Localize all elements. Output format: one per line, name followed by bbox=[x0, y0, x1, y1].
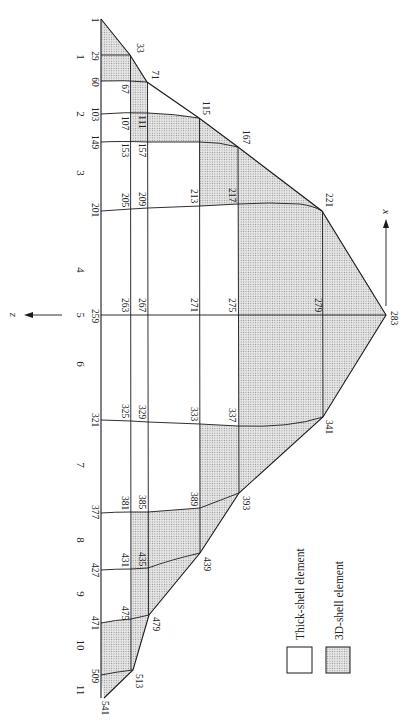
x-axis: x bbox=[381, 209, 393, 306]
node-label: 107 bbox=[120, 116, 130, 131]
node-label: 389 bbox=[189, 492, 199, 507]
legend-thick-shell-label: Thick-shell element bbox=[294, 548, 306, 640]
node-label: 271 bbox=[189, 298, 199, 313]
x-arrowhead-icon bbox=[383, 219, 389, 228]
section-number: 9 bbox=[75, 591, 87, 597]
node-label: 431 bbox=[120, 553, 130, 568]
node-label: 71 bbox=[150, 70, 160, 80]
section-number: 5 bbox=[75, 312, 87, 318]
node-label: 435 bbox=[137, 552, 147, 567]
z-axis: z bbox=[8, 312, 62, 318]
region-149-201 bbox=[200, 142, 322, 211]
node-label: 217 bbox=[227, 188, 237, 203]
node-label: 279 bbox=[313, 298, 323, 313]
section-number: 8 bbox=[75, 537, 87, 543]
legend-thick-shell-swatch bbox=[287, 647, 312, 673]
section-number: 11 bbox=[75, 685, 87, 696]
node-label: 439 bbox=[202, 557, 212, 572]
node-label: 377 bbox=[90, 505, 100, 520]
node-label: 337 bbox=[227, 408, 237, 423]
node-label: 381 bbox=[120, 496, 130, 511]
node-label: 341 bbox=[324, 420, 334, 435]
finite-element-mesh-diagram: z x 1234567891011 1293360677110310711111… bbox=[0, 0, 415, 724]
section-numbers: 1234567891011 bbox=[75, 54, 87, 695]
node-label: 209 bbox=[137, 192, 147, 207]
node-label: 479 bbox=[151, 617, 161, 632]
node-label: 329 bbox=[137, 405, 147, 420]
node-label: 167 bbox=[241, 130, 251, 145]
node-label: 471 bbox=[90, 616, 100, 631]
section-number: 3 bbox=[75, 170, 87, 176]
node-label: 475 bbox=[120, 606, 130, 621]
node-label: 149 bbox=[90, 135, 100, 150]
node-label: 321 bbox=[90, 413, 100, 428]
node-label: 201 bbox=[90, 203, 100, 218]
node-label: 333 bbox=[189, 407, 199, 422]
region-321-377 bbox=[200, 417, 323, 508]
z-axis-label: z bbox=[8, 312, 20, 318]
node-label: 157 bbox=[137, 143, 147, 158]
x-axis-label: x bbox=[381, 209, 393, 215]
legend-3d-shell-label: 3D-shell element bbox=[333, 560, 345, 640]
region-bottom bbox=[101, 615, 149, 675]
section-number: 10 bbox=[75, 640, 87, 652]
node-label: 427 bbox=[90, 563, 100, 578]
section-number: 1 bbox=[75, 54, 87, 60]
node-label: 509 bbox=[90, 669, 100, 684]
node-label: 541 bbox=[100, 701, 110, 716]
node-label: 275 bbox=[227, 298, 237, 313]
node-label: 67 bbox=[120, 84, 130, 94]
section-number: 4 bbox=[75, 267, 87, 273]
node-label: 205 bbox=[120, 193, 130, 208]
node-label: 385 bbox=[137, 495, 147, 510]
node-label: 1 bbox=[90, 18, 100, 23]
node-label: 325 bbox=[120, 404, 130, 419]
region-60-103 bbox=[131, 81, 148, 113]
section-number: 6 bbox=[75, 361, 87, 367]
node-label: 283 bbox=[389, 311, 399, 326]
node-label: 221 bbox=[324, 193, 334, 208]
section-number: 7 bbox=[75, 462, 87, 468]
node-label: 513 bbox=[134, 674, 144, 689]
node-label: 115 bbox=[201, 101, 211, 115]
node-label: 111 bbox=[137, 115, 147, 129]
node-label: 267 bbox=[137, 298, 147, 313]
node-label: 153 bbox=[120, 143, 130, 158]
legend-3d-shell-swatch bbox=[326, 647, 350, 673]
node-label: 60 bbox=[90, 77, 100, 87]
node-label: 33 bbox=[135, 43, 145, 53]
section-number: 2 bbox=[75, 111, 87, 117]
node-label: 29 bbox=[90, 51, 100, 61]
legend: Thick-shell element 3D-shell element bbox=[287, 548, 350, 673]
node-label: 103 bbox=[90, 107, 100, 122]
node-label: 393 bbox=[241, 496, 251, 511]
node-label: 263 bbox=[120, 298, 130, 313]
node-label: 259 bbox=[90, 309, 100, 324]
region-center bbox=[238, 203, 386, 426]
z-arrowhead-icon bbox=[24, 312, 33, 318]
node-label: 213 bbox=[189, 189, 199, 204]
